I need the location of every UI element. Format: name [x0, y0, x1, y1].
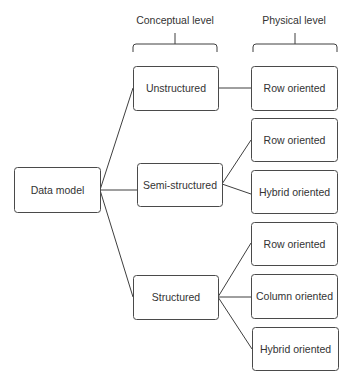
- node-label: Semi-structured: [143, 179, 217, 191]
- column-label-physical: Physical level: [262, 14, 326, 26]
- level-braces: Conceptual levelPhysical level: [133, 14, 337, 52]
- node-label: Data model: [31, 184, 85, 196]
- node-data-model: Data model: [15, 168, 101, 213]
- node-label: Structured: [152, 291, 201, 303]
- node-label: Row oriented: [264, 82, 326, 94]
- node-label: Column oriented: [256, 290, 333, 302]
- column-label-conceptual: Conceptual level: [136, 14, 214, 26]
- node-label: Unstructured: [146, 82, 206, 94]
- node-unstructured-row: Row oriented: [252, 67, 338, 111]
- nodes: Data modelUnstructuredSemi-structuredStr…: [15, 67, 339, 371]
- edge-data-model-to-structured: [100, 190, 133, 297]
- node-label: Hybrid oriented: [259, 186, 330, 198]
- edge-semi-structured-to-semi-hybrid: [222, 184, 251, 194]
- node-unstructured: Unstructured: [134, 67, 219, 111]
- node-structured: Structured: [134, 276, 219, 320]
- edge-structured-to-structured-row: [218, 243, 251, 297]
- node-structured-hybrid: Hybrid oriented: [253, 328, 339, 371]
- diagram-canvas: Conceptual levelPhysical level Data mode…: [0, 0, 364, 383]
- node-semi-row: Row oriented: [252, 119, 338, 162]
- brace-physical: [253, 33, 337, 52]
- node-semi-hybrid: Hybrid oriented: [252, 171, 338, 214]
- cutoff-caption: [8, 0, 358, 3]
- node-label: Hybrid oriented: [260, 343, 331, 355]
- brace-conceptual: [133, 33, 217, 52]
- edge-semi-structured-to-semi-row: [222, 140, 251, 184]
- node-label: Row oriented: [264, 238, 326, 250]
- edge-data-model-to-unstructured: [100, 88, 133, 190]
- edge-structured-to-structured-hybrid: [218, 297, 252, 349]
- node-structured-row: Row oriented: [252, 223, 338, 266]
- data-model-diagram: Conceptual levelPhysical level Data mode…: [0, 0, 364, 383]
- node-label: Row oriented: [264, 134, 326, 146]
- node-structured-column: Column oriented: [252, 275, 338, 319]
- node-semi-structured: Semi-structured: [138, 164, 223, 207]
